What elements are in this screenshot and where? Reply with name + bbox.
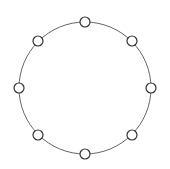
ring-node-top (80, 17, 90, 27)
ring-node-right (146, 83, 156, 93)
ring-node-bottom-left (33, 130, 43, 140)
ring-nodes (14, 17, 156, 159)
ring-diagram (0, 0, 170, 169)
ring-node-bottom (80, 149, 90, 159)
ring-node-left (14, 83, 24, 93)
ring-node-bottom-right (127, 130, 137, 140)
ring-node-top-left (33, 36, 43, 46)
ring-node-top-right (127, 36, 137, 46)
